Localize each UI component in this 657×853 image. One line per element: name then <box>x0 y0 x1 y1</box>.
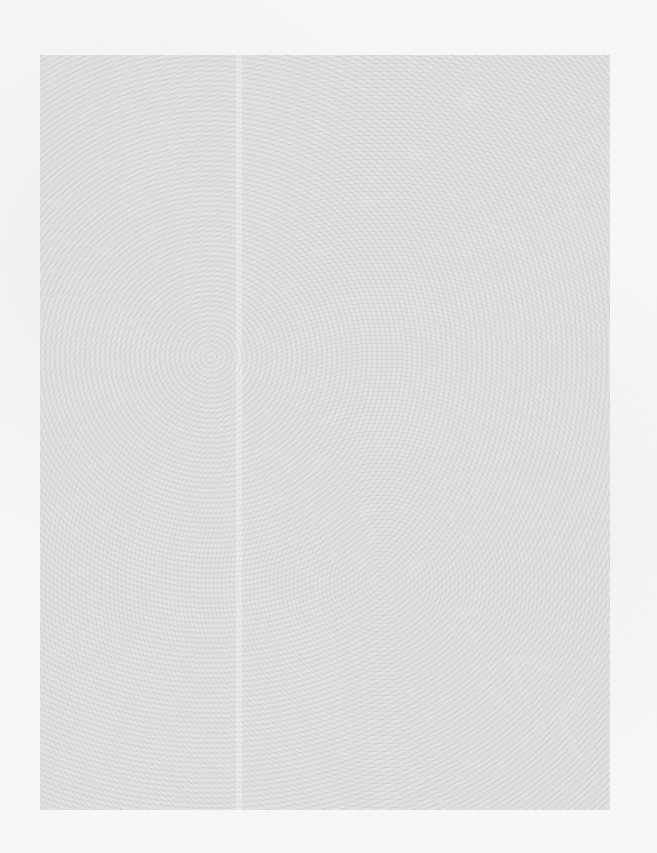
scan-noise-region <box>40 55 610 810</box>
page-fold-line <box>236 55 242 810</box>
blank-scanned-page <box>0 0 657 853</box>
